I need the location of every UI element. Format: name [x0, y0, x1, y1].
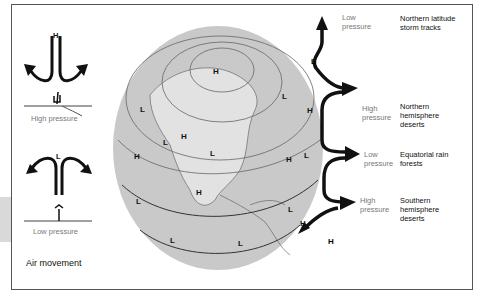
low-letter: L [56, 152, 61, 161]
diagram-title: Air movement [26, 258, 82, 268]
svg-text:H: H [213, 67, 219, 76]
svg-text:L: L [170, 236, 175, 245]
pressure-label-1: Low pressure [342, 13, 382, 31]
svg-text:L: L [282, 92, 287, 101]
low-pressure-caption: Low pressure [33, 227, 78, 236]
palm-tree-icon [55, 205, 63, 221]
svg-text:L: L [238, 239, 243, 248]
svg-text:L: L [311, 57, 316, 66]
svg-text:H: H [134, 152, 140, 161]
high-pressure-arrows [30, 36, 82, 81]
svg-text:H: H [328, 237, 334, 246]
svg-text:L: L [140, 105, 145, 114]
svg-text:H: H [181, 132, 187, 141]
svg-text:L: L [163, 138, 168, 147]
svg-text:L: L [288, 205, 293, 214]
region-label-3: Equatorial rain forests [400, 150, 460, 168]
svg-text:H: H [307, 106, 313, 115]
svg-text:H: H [286, 155, 292, 164]
high-letter: H [53, 31, 58, 40]
svg-text:L: L [136, 197, 141, 206]
svg-text:L: L [304, 151, 309, 160]
region-label-2: Northern hemisphere deserts [400, 102, 458, 129]
cactus-icon [54, 92, 60, 104]
high-pressure-caption: High pressure [31, 114, 78, 123]
pressure-label-3: Low pressure [364, 150, 404, 168]
pressure-label-4: High pressure [360, 196, 400, 214]
diagram-graphics: HLL LHL HHH LLL LHHL L H [0, 0, 481, 296]
region-label-1: Northern latitude storm tracks [400, 14, 468, 32]
svg-text:L: L [210, 149, 215, 158]
low-pressure-arrows [32, 158, 86, 195]
region-label-4: Southern hemisphere deserts [400, 196, 458, 223]
pressure-label-2: High pressure [362, 104, 402, 122]
svg-text:H: H [196, 188, 202, 197]
globe [113, 26, 323, 270]
